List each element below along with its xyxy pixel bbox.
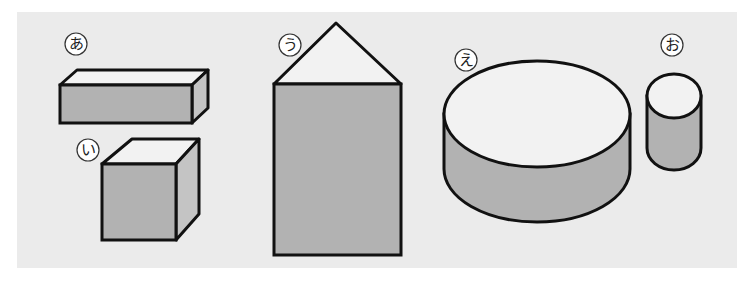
label-u: う (279, 34, 301, 56)
svg-text:え: え (459, 51, 474, 69)
svg-text:う: う (283, 36, 298, 54)
svg-text:お: お (665, 36, 680, 54)
shape-e-wide-cylinder (444, 61, 630, 222)
shape-a-prism (60, 70, 208, 123)
shape-o-narrow-cylinder (647, 74, 701, 170)
shape-u-pyramid-prism (274, 23, 401, 255)
svg-text:い: い (81, 141, 96, 159)
svg-text:あ: あ (69, 35, 84, 53)
label-o: お (661, 34, 683, 56)
label-e: え (455, 49, 477, 71)
label-i: い (77, 139, 99, 161)
shape-i-cube (102, 139, 199, 240)
label-a: あ (65, 33, 87, 55)
shapes-diagram: あ い う え お (0, 0, 752, 283)
